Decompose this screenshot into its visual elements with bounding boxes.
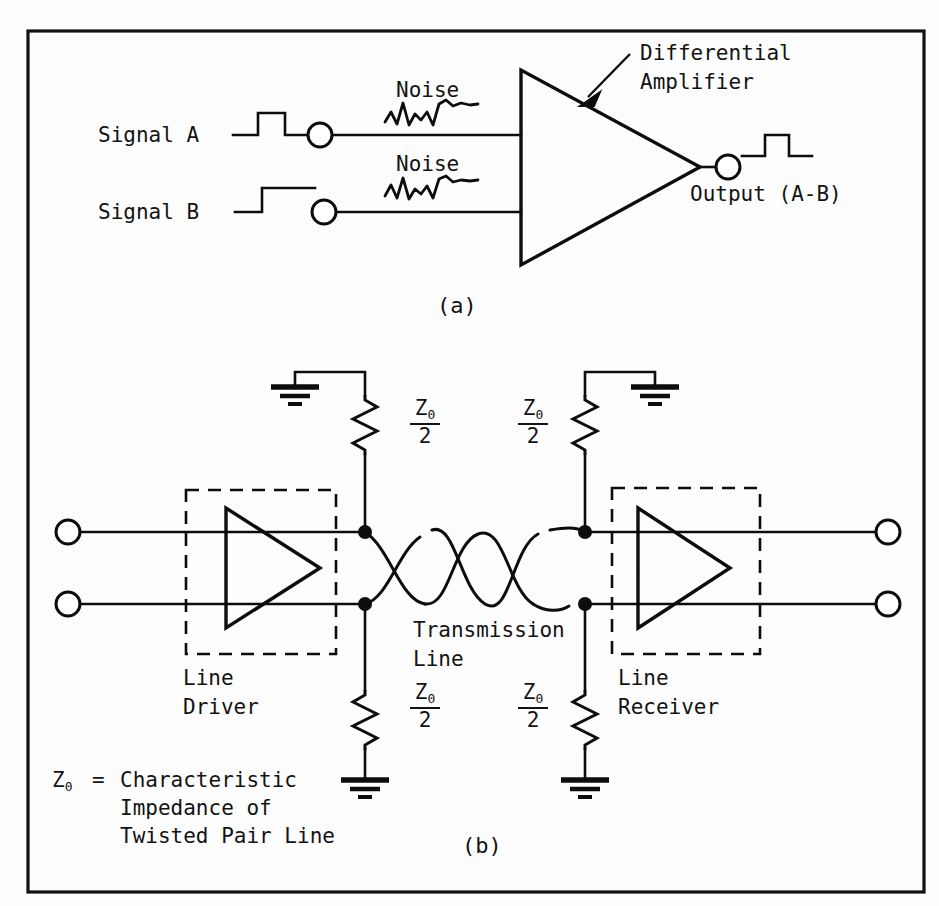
line-receiver-triangle [638,508,730,628]
differential-amplifier-label-line2: Amplifier [640,70,754,96]
z-symbol: Z [415,680,428,704]
resistor-receiver-bottom [573,690,597,750]
z-symbol: Z [415,396,428,420]
differential-amplifier-triangle [521,70,700,265]
line-driver-triangle [226,508,320,628]
signal-a-waveform [233,113,308,135]
output-terminal [716,155,740,179]
noise-squiggle-top [385,100,478,125]
signal-b-label: Signal B [98,200,199,226]
denominator: 2 [398,709,452,731]
receiver-top-resistor-upper-lead [585,372,655,395]
receiver-output-terminal-bottom [876,592,900,616]
figure-canvas: Signal A Signal B Noise Noise Differenti… [0,0,939,906]
z-subscript: 0 [535,691,543,706]
legend-line-3: Twisted Pair Line [120,824,335,850]
resistor-label-driver-bottom: Z0 2 [398,682,452,731]
panel-a-caption: (a) [437,293,477,320]
legend-line-1: Characteristic [120,768,297,794]
legend-z: Z [52,768,65,792]
denominator: 2 [506,709,560,731]
panel-b-caption: (b) [462,833,502,860]
driver-top-resistor-upper-lead [295,372,365,395]
signal-a-label: Signal A [98,123,199,149]
noise-label-top: Noise [396,78,459,104]
noise-squiggle-bottom [385,176,478,199]
transmission-line-label-line2: Line [413,647,464,673]
legend-equals: = [92,768,105,794]
resistor-label-driver-top: Z0 2 [398,398,452,447]
driver-input-terminal-top [56,520,80,544]
line-receiver-box [612,488,760,654]
differential-amplifier-label-line1: Differential [640,41,792,67]
ground-symbol-driver-bottom [341,780,389,797]
driver-input-terminal-bottom [56,592,80,616]
denominator: 2 [506,425,560,447]
resistor-driver-top [353,395,377,455]
resistor-label-receiver-top: Z0 2 [506,398,560,447]
twisted-pair-line [365,528,585,610]
resistor-receiver-top [573,395,597,455]
amplifier-pointer-arrow [580,54,630,106]
z-symbol: Z [523,680,536,704]
signal-a-terminal [308,123,332,147]
legend-z-subscript: 0 [65,779,73,794]
z-subscript: 0 [427,407,435,422]
z-symbol: Z [523,396,536,420]
z-subscript: 0 [535,407,543,422]
ground-symbol-receiver-bottom [561,780,609,797]
figure-border [28,31,924,892]
line-receiver-label-line2: Receiver [618,695,719,721]
signal-b-waveform [235,188,315,212]
ground-symbol-receiver-top [631,387,679,404]
line-driver-label-line1: Line [183,666,234,692]
noise-label-bottom: Noise [396,152,459,178]
output-label: Output (A-B) [690,182,842,208]
receiver-output-terminal-top [876,520,900,544]
transmission-line-label-line1: Transmission [413,618,565,644]
legend-z-symbol: Z0 [52,768,72,795]
line-driver-label-line2: Driver [183,695,259,721]
output-waveform [742,135,812,156]
resistor-label-receiver-bottom: Z0 2 [506,682,560,731]
z-subscript: 0 [427,691,435,706]
legend-line-2: Impedance of [120,796,272,822]
line-receiver-label-line1: Line [618,666,669,692]
ground-symbol-driver-top [271,387,319,404]
resistor-driver-bottom [353,690,377,750]
signal-b-terminal [312,200,336,224]
denominator: 2 [398,425,452,447]
